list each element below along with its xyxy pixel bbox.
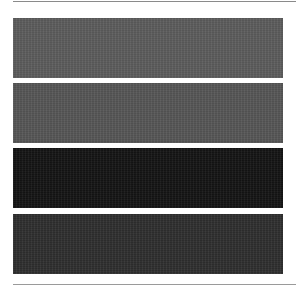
gray-band-3 [13,148,283,208]
bottom-rule [13,284,296,285]
gray-band-2 [13,83,283,143]
top-rule [13,1,296,2]
gray-band-4 [13,214,283,274]
gray-band-1 [13,18,283,78]
